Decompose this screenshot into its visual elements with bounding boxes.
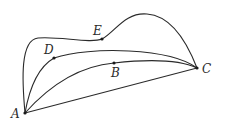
- point-C: [195, 66, 198, 69]
- label-E: E: [92, 24, 102, 38]
- label-D: D: [43, 43, 54, 57]
- curve-ADC: [25, 51, 197, 113]
- path-diagram: A B C D E: [0, 0, 226, 127]
- point-B: [112, 61, 115, 64]
- label-B: B: [110, 66, 120, 80]
- label-C: C: [202, 62, 211, 76]
- label-A: A: [10, 107, 20, 121]
- point-A: [23, 111, 26, 114]
